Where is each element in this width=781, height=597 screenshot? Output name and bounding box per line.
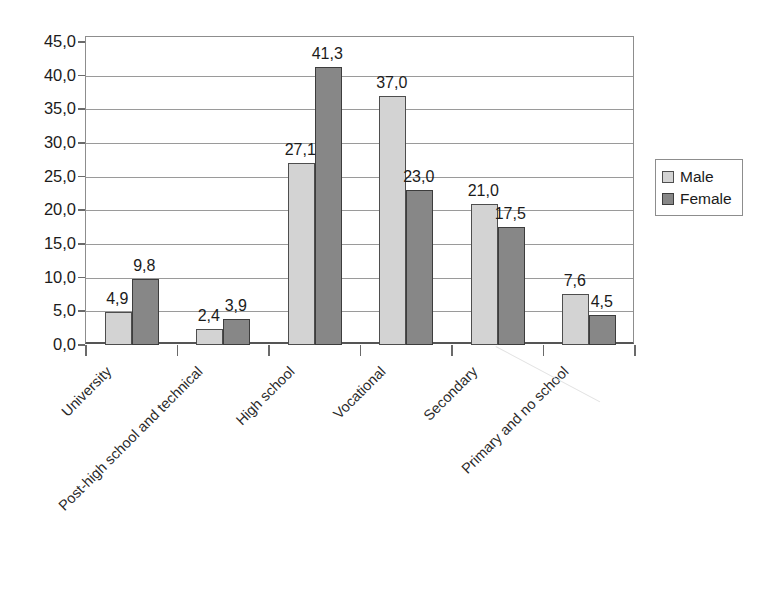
bar-value-label: 21,0 [455,183,511,199]
legend-swatch-male-icon [662,171,674,183]
y-axis-tick-label: 10,0 [5,269,76,285]
x-axis-category-label: Secondary [421,364,481,424]
bar [132,279,159,345]
x-axis-tick-mark [634,345,636,356]
bar [315,67,342,345]
y-axis-tick-mark [78,108,85,110]
x-axis-category-label: Vocational [331,364,389,422]
y-axis-tick-label: 40,0 [5,67,76,83]
bar [406,190,433,345]
x-axis-tick-mark [451,345,453,356]
y-axis-tick-label: 45,0 [5,33,76,49]
y-axis-tick-mark [78,75,85,77]
bar-value-label: 7,6 [547,273,603,289]
y-axis-tick-label: 25,0 [5,168,76,184]
x-axis-tick-mark [543,345,545,356]
legend: Male Female [655,159,743,216]
gridline [86,311,633,312]
x-axis-tick-mark [268,345,270,356]
bar-value-label: 41,3 [299,46,355,62]
legend-item-male: Male [662,166,742,188]
gridline [86,177,633,178]
bar [196,329,223,345]
gridline [86,76,633,77]
y-axis-tick-mark [78,142,85,144]
gridline [86,210,633,211]
x-axis-category-label: High school [233,364,297,428]
bar [288,163,315,345]
plot-area [85,36,634,344]
bar [471,204,498,345]
legend-item-female: Female [662,188,742,210]
legend-label-female: Female [680,191,732,207]
bar-value-label: 4,5 [574,294,630,310]
y-axis-tick-mark [78,41,85,43]
bar-chart: 0,05,010,015,020,025,030,035,040,045,0 U… [0,0,781,597]
y-axis-tick-mark [78,310,85,312]
y-axis-tick-mark [78,344,85,346]
y-axis-tick-label: 0,0 [5,336,76,352]
x-axis-tick-mark [85,345,87,356]
legend-swatch-female-icon [662,193,674,205]
y-axis-tick-label: 5,0 [5,302,76,318]
bar-value-label: 23,0 [391,169,447,185]
bar-value-label: 4,9 [89,291,145,307]
y-axis-tick-label: 30,0 [5,134,76,150]
bar [589,315,616,345]
bar [105,312,132,345]
bar-value-label: 3,9 [208,298,264,314]
y-axis-tick-label: 20,0 [5,201,76,217]
bar-value-label: 37,0 [364,75,420,91]
y-axis-tick-mark [78,243,85,245]
bar-value-label: 9,8 [116,258,172,274]
y-axis-tick-label: 35,0 [5,100,76,116]
gridline [86,143,633,144]
y-axis-tick-mark [78,176,85,178]
bar [379,96,406,345]
x-axis-category-label: Primary and no school [459,364,572,477]
gridline [86,109,633,110]
gridline [86,244,633,245]
y-axis-tick-label: 15,0 [5,235,76,251]
y-axis-tick-mark [78,209,85,211]
bar-value-label: 27,1 [272,142,328,158]
x-axis-category-label: University [59,364,115,420]
bar-value-label: 17,5 [482,206,538,222]
x-axis-tick-mark [177,345,179,356]
x-axis-tick-mark [360,345,362,356]
bar [498,227,525,345]
legend-label-male: Male [680,169,714,185]
y-axis-tick-mark [78,277,85,279]
